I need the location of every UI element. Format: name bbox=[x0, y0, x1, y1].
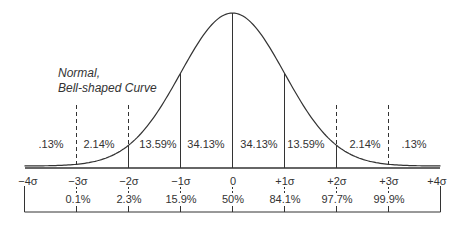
title-line-1: Normal, bbox=[58, 66, 157, 81]
normal-distribution-diagram bbox=[0, 0, 464, 225]
band-label: 13.59% bbox=[287, 139, 324, 150]
band-label: 13.59% bbox=[139, 139, 176, 150]
band-label: 34.13% bbox=[240, 139, 277, 150]
percentile-label: 0.1% bbox=[65, 194, 90, 205]
band-label: 2.14% bbox=[349, 139, 380, 150]
x-tick-label: +4σ bbox=[427, 176, 446, 187]
percentile-label: 97.7% bbox=[321, 194, 352, 205]
percentile-label: 99.9% bbox=[373, 194, 404, 205]
percentile-label: 15.9% bbox=[165, 194, 196, 205]
band-label: .13% bbox=[401, 139, 426, 150]
title-line-2: Bell-shaped Curve bbox=[58, 81, 157, 96]
band-label: .13% bbox=[38, 139, 63, 150]
band-label: 34.13% bbox=[187, 139, 224, 150]
x-tick-label: −1σ bbox=[171, 176, 190, 187]
percentile-label: 84.1% bbox=[269, 194, 300, 205]
x-tick-label: −4σ bbox=[18, 176, 37, 187]
x-tick-label: +3σ bbox=[379, 176, 398, 187]
x-tick-label: +2σ bbox=[327, 176, 346, 187]
x-tick-label: 0 bbox=[230, 176, 236, 187]
chart-title: Normal, Bell-shaped Curve bbox=[58, 66, 157, 96]
percentile-label: 50% bbox=[222, 194, 244, 205]
x-tick-label: −2σ bbox=[119, 176, 138, 187]
percentile-label: 2.3% bbox=[116, 194, 141, 205]
band-label: 2.14% bbox=[83, 139, 114, 150]
x-tick-label: +1σ bbox=[275, 176, 294, 187]
x-tick-label: −3σ bbox=[68, 176, 87, 187]
